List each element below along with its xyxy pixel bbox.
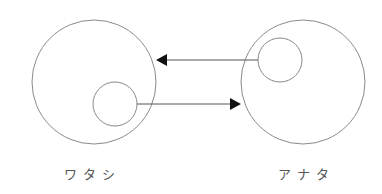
anata-outer-circle: [241, 20, 365, 144]
watashi-outer-circle: [32, 20, 156, 144]
edge-watashi-to-anata: [137, 98, 241, 110]
node-watashi: [32, 20, 156, 144]
anata-inner-circle: [258, 38, 302, 82]
arrowhead-left-icon: [156, 54, 167, 66]
label-anata: アナタ: [278, 164, 335, 183]
arrowhead-right-icon: [230, 98, 241, 110]
watashi-inner-circle: [93, 82, 137, 126]
label-watashi: ワタシ: [64, 164, 121, 183]
edge-anata-to-watashi: [156, 54, 258, 66]
node-anata: [241, 20, 365, 144]
